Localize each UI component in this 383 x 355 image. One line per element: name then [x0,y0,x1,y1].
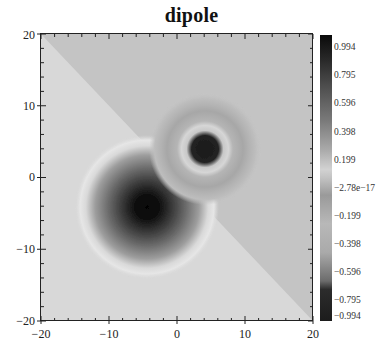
colorbar-label: 0.199 [334,155,355,165]
x-tick-label: −10 [94,327,124,342]
y-tick-label: 10 [5,99,35,114]
y-tick-label: −10 [5,242,35,257]
colorbar-label: −0.994 [334,311,361,321]
positive-pole [149,93,261,205]
colorbar-label: −0.398 [334,239,361,249]
colorbar-label: 0.994 [334,42,355,52]
heatmap-canvas [41,34,313,321]
colorbar-label: 0.795 [334,70,355,80]
colorbar [320,35,332,321]
x-tick-label: 10 [230,327,260,342]
colorbar-label: −0.199 [334,211,361,221]
chart-title: dipole [0,4,383,27]
x-tick-label: 0 [162,327,192,342]
colorbar-label: −2.78e−17 [334,183,375,193]
x-tick-label: −20 [26,327,56,342]
y-tick-label: 0 [5,170,35,185]
plot-area [41,34,313,321]
y-tick-label: 20 [5,28,35,43]
colorbar-label: 0.398 [334,127,355,137]
colorbar-label: −0.795 [334,295,361,305]
x-tick-label: 20 [298,327,328,342]
colorbar-label: 0.596 [334,98,355,108]
colorbar-label: −0.596 [334,267,361,277]
